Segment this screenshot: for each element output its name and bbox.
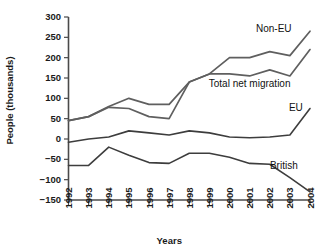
y-axis-tick-label: 100: [45, 92, 61, 103]
migration-line-chart: −150−100−50050100150200250300 1992199319…: [0, 0, 326, 251]
y-axis-tick-label: 250: [45, 31, 61, 42]
x-axis-tick-label: 1995: [123, 187, 134, 209]
y-axis-tick-label: 200: [45, 52, 61, 63]
x-axis-tick-label: 2003: [284, 187, 295, 208]
x-axis-tick-label: 1994: [103, 187, 114, 209]
series-label-non-eu: Non-EU: [256, 23, 292, 34]
y-axis-tick-label: 150: [45, 72, 61, 83]
y-axis-tick-label: 50: [50, 113, 61, 124]
series-labels-group: Non-EUTotal net migrationEUBritish: [209, 23, 303, 170]
y-axis-tick-label: 0: [56, 133, 61, 144]
y-axis: −150−100−50050100150200250300: [40, 11, 69, 205]
y-axis-tick-label: −100: [40, 174, 61, 185]
x-axis-tick-label: 1997: [164, 187, 175, 208]
y-axis-tick-label: 300: [45, 11, 61, 22]
series-label-british: British: [270, 160, 298, 171]
x-axis-tick-label: 1992: [63, 187, 74, 208]
x-axis-tick-label: 1993: [83, 187, 94, 208]
series-line-non-eu: [69, 31, 311, 120]
x-axis-tick-label: 1996: [144, 187, 155, 208]
x-axis-tick-label: 1999: [204, 187, 215, 208]
y-axis-tick-label: −150: [40, 194, 61, 205]
series-line-eu: [69, 109, 311, 143]
x-axis-tick-label: 2000: [224, 187, 235, 208]
x-axis-title: Years: [157, 235, 182, 246]
x-axis-tick-label: 2001: [244, 187, 255, 209]
y-axis-title: People (thousands): [4, 56, 15, 144]
series-label-total-net-migration: Total net migration: [209, 78, 291, 89]
x-axis-tick-label: 1998: [184, 187, 195, 208]
series-label-eu: EU: [289, 102, 303, 113]
x-axis-tick-label: 2002: [264, 187, 275, 208]
chart-canvas: −150−100−50050100150200250300 1992199319…: [0, 0, 326, 251]
axis-titles-group: YearsPeople (thousands): [4, 56, 182, 246]
x-axis: 1992199319941995199619971998199920002001…: [63, 187, 316, 209]
y-axis-tick-label: −50: [45, 153, 61, 164]
